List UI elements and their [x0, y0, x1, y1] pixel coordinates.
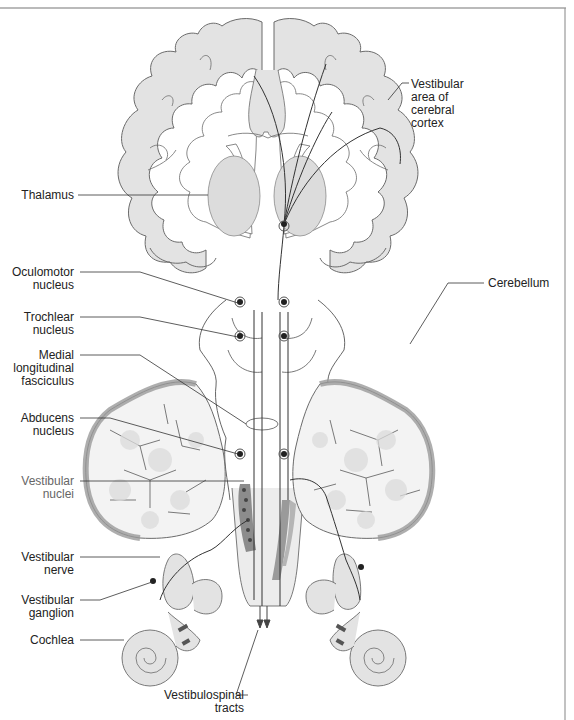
label-cochlea: Cochlea: [0, 634, 74, 647]
label-thalamus: Thalamus: [0, 189, 74, 202]
vestibular-pathway-diagram: [0, 0, 574, 720]
cochlea-left: [122, 630, 178, 686]
cerebrum: [118, 19, 418, 273]
label-oculomotor-nucleus: Oculomotor nucleus: [0, 266, 74, 292]
label-vestibulospinal-tracts: Vestibulospinal tracts: [120, 689, 244, 715]
label-vestibular-nerve: Vestibular nerve: [0, 551, 74, 577]
inner-ear-left: [122, 554, 222, 686]
label-medial-longitudinal-fasciculus: Medial longitudinal fasciculus: [0, 349, 74, 388]
label-vestibular-ganglion: Vestibular ganglion: [0, 594, 74, 620]
cochlea-right: [350, 630, 406, 686]
vestibular-ganglion-right: [358, 564, 364, 570]
label-vestibular-cortex: Vestibular area of cerebral cortex: [411, 78, 464, 130]
inner-ear-right: [306, 554, 406, 686]
label-abducens-nucleus: Abducens nucleus: [0, 412, 74, 438]
vestibular-ganglion-left: [150, 578, 156, 584]
vestibulospinal-arrows: [257, 606, 270, 628]
diagram-canvas: Vestibular area of cerebral cortex Thala…: [0, 0, 574, 720]
thalamus-left: [208, 156, 260, 236]
label-trochlear-nucleus: Trochlear nucleus: [0, 311, 74, 337]
label-vestibular-nuclei: Vestibular nuclei: [0, 475, 74, 501]
label-cerebellum: Cerebellum: [488, 277, 549, 290]
